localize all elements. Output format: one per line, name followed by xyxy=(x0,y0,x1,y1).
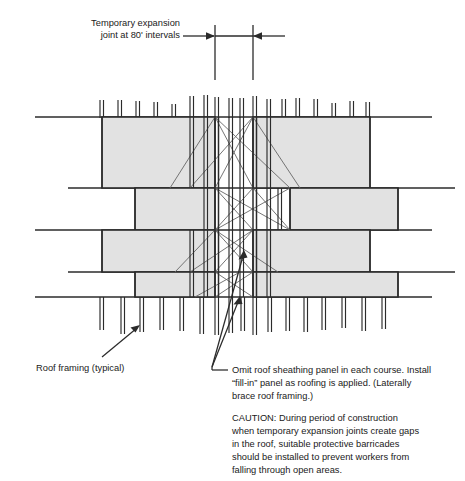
top-note-line-1: Temporary expansion xyxy=(91,18,180,28)
caution-line-3: in the roof, suitable protective barrica… xyxy=(232,439,400,449)
caution-line-1: CAUTION: During period of construction xyxy=(232,413,398,423)
expansion-joint-diagram: Temporary expansion joint at 80' interva… xyxy=(0,0,465,481)
roof-sheathing-panel xyxy=(290,188,398,230)
omit-panel-line-1: Omit roof sheathing panel in each course… xyxy=(232,365,431,375)
roof-sheathing-panel xyxy=(135,272,215,297)
caution-line-5: falling through open areas. xyxy=(232,465,342,475)
omit-panel-line-2: “fill-in” panel as roofing is applied. (… xyxy=(232,378,412,388)
omit-panel-line-3: brace roof framing.) xyxy=(232,391,313,401)
roof-framing-label: Roof framing (typical) xyxy=(36,363,124,373)
caution-line-4: should be installed to prevent workers f… xyxy=(232,452,410,462)
caution-line-2: when temporary expansion joints create g… xyxy=(231,426,419,436)
top-note-line-2: joint at 80' intervals xyxy=(100,30,181,40)
roof-sheathing-panel xyxy=(102,230,215,272)
roof-sheathing-panel xyxy=(102,117,215,188)
roof-sheathing-panel xyxy=(253,272,398,297)
figure-canvas: Temporary expansion joint at 80' interva… xyxy=(0,0,465,481)
roof-sheathing-panel xyxy=(135,188,215,230)
